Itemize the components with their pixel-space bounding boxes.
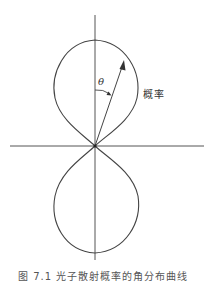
- lower-lobe-curve: [54, 146, 139, 253]
- probability-label: 概率: [143, 90, 164, 100]
- upper-lobe-curve: [54, 40, 138, 146]
- arrowhead-icon: [120, 60, 126, 71]
- angle-theta-label: θ: [98, 77, 104, 87]
- origin-point: [93, 144, 96, 147]
- figure-caption: 图 7.1 光子散射概率的角分布曲线: [18, 268, 188, 283]
